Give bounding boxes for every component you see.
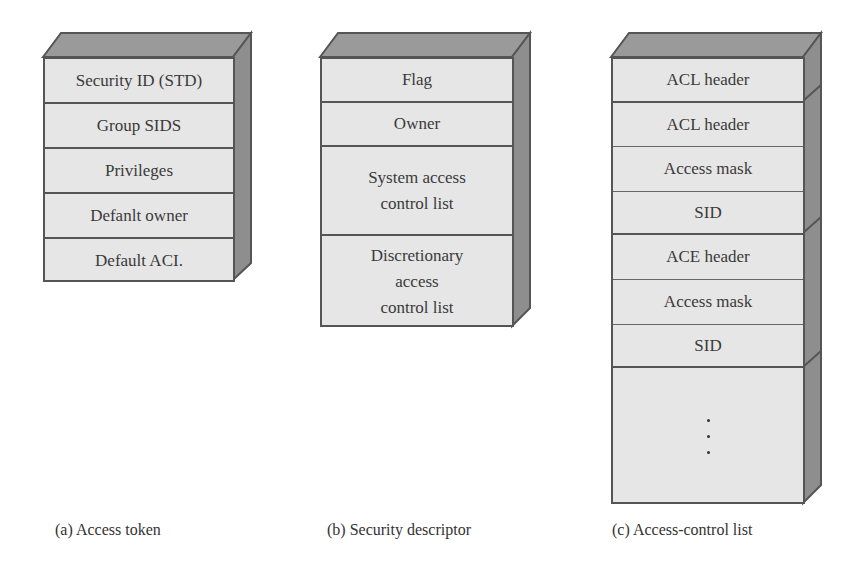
- field-label: Access mask: [664, 156, 752, 182]
- field-label: Defanlt owner: [90, 203, 188, 229]
- field-label: Access mask: [664, 289, 752, 315]
- field-label-line: Discretionary: [371, 243, 464, 269]
- field-flag: Flag: [322, 59, 512, 103]
- caption-access-control-list: (c) Access-control list: [612, 521, 752, 539]
- field-label-line: control list: [380, 191, 453, 217]
- security-descriptor-front: Flag Owner System access control list Di…: [320, 57, 514, 327]
- field-security-id: Security ID (STD): [45, 59, 233, 104]
- field-default-acl: Default ACI.: [45, 239, 233, 282]
- access-control-list-stack: ACL header ACL header Access mask SID AC…: [611, 33, 831, 508]
- field-label: SID: [694, 200, 721, 226]
- field-label: Default ACI.: [95, 248, 183, 274]
- field-ace-header: ACE header: [613, 235, 803, 280]
- field-label: Security ID (STD): [76, 68, 203, 94]
- field-label: SID: [694, 333, 721, 359]
- field-label: Owner: [394, 111, 440, 137]
- field-access-mask: Access mask: [613, 147, 803, 192]
- field-group-sids: Group SIDS: [45, 104, 233, 149]
- access-token-stack: Security ID (STD) Group SIDS Privileges …: [43, 33, 263, 283]
- field-sid: SID: [613, 192, 803, 235]
- field-label: Privileges: [105, 158, 173, 184]
- field-access-mask-2: Access mask: [613, 280, 803, 325]
- security-descriptor-stack: Flag Owner System access control list Di…: [320, 33, 540, 329]
- field-label: ACL header: [667, 112, 750, 138]
- vertical-ellipsis-icon: [707, 419, 710, 454]
- caption-security-descriptor: (b) Security descriptor: [327, 521, 471, 539]
- field-label: ACE header: [666, 244, 750, 270]
- field-system-acl: System access control list: [322, 147, 512, 236]
- field-acl-header-2: ACL header: [613, 103, 803, 147]
- access-control-list-front: ACL header ACL header Access mask SID AC…: [611, 57, 805, 504]
- access-token-front: Security ID (STD) Group SIDS Privileges …: [43, 57, 235, 282]
- field-default-owner: Defanlt owner: [45, 194, 233, 239]
- field-label-line: control list: [380, 295, 453, 321]
- field-owner: Owner: [322, 103, 512, 147]
- field-continuation: [613, 368, 803, 504]
- field-label: Flag: [402, 67, 432, 93]
- caption-access-token: (a) Access token: [55, 521, 161, 539]
- field-privileges: Privileges: [45, 149, 233, 194]
- field-label: ACL header: [667, 67, 750, 93]
- field-label: Group SIDS: [97, 113, 182, 139]
- field-discretionary-acl: Discretionary access control list: [322, 236, 512, 327]
- field-sid-2: SID: [613, 325, 803, 368]
- field-label-line: access: [395, 269, 438, 295]
- field-label-line: System access: [368, 165, 466, 191]
- field-acl-header: ACL header: [613, 59, 803, 103]
